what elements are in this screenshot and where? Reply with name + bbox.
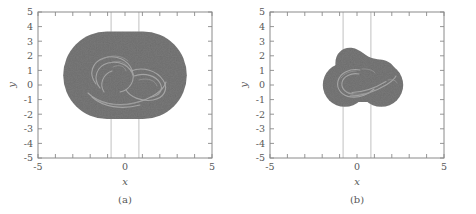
y-tick-label: -5 [24, 152, 33, 163]
x-axis-tick-labels-b: -5 0 5 [265, 161, 447, 172]
x-tick-label: -5 [265, 161, 274, 172]
y-tick-label: 4 [259, 21, 265, 32]
y-tick-label: 2 [259, 50, 265, 61]
x-tick-label: 5 [441, 161, 447, 172]
y-tick-label: -1 [256, 94, 265, 105]
chart-panel-a: 5 4 3 2 1 0 -1 -2 -3 -4 -5 -5 0 5 x y [0, 0, 238, 214]
y-axis-tick-labels-a: 5 4 3 2 1 0 -1 -2 -3 -4 -5 [24, 6, 33, 163]
x-tick-label: 0 [354, 161, 360, 172]
y-tick-label: -5 [256, 152, 265, 163]
y-tick-label: -4 [256, 138, 265, 149]
y-tick-label: 2 [27, 50, 33, 61]
cloud-body-a [63, 31, 187, 119]
y-tick-label: -1 [24, 94, 33, 105]
x-axis-label-b: x [354, 176, 360, 187]
particle-cloud-a [63, 31, 187, 119]
y-tick-label: 5 [27, 6, 33, 17]
x-axis-label-a: x [122, 176, 128, 187]
y-tick-label: -2 [24, 109, 33, 120]
y-tick-label: -3 [24, 123, 33, 134]
figure-container: 5 4 3 2 1 0 -1 -2 -3 -4 -5 -5 0 5 x y [0, 0, 476, 214]
y-tick-label: 0 [27, 79, 33, 90]
panel-caption-b: (b) [350, 194, 364, 205]
y-tick-label: 1 [259, 65, 265, 76]
x-tick-label: -5 [33, 161, 42, 172]
panel-caption-a: (a) [118, 194, 132, 205]
y-axis-tick-labels-b: 5 4 3 2 1 0 -1 -2 -3 -4 -5 [256, 6, 265, 163]
y-tick-label: 3 [27, 36, 33, 47]
x-tick-label: 5 [209, 161, 215, 172]
y-axis-label-a: y [6, 82, 17, 89]
chart-panel-b: 5 4 3 2 1 0 -1 -2 -3 -4 -5 -5 0 5 x y [238, 0, 476, 214]
y-tick-label: -4 [24, 138, 33, 149]
plot-svg-b: 5 4 3 2 1 0 -1 -2 -3 -4 -5 -5 0 5 x y [238, 0, 476, 214]
particle-cloud-b [323, 48, 403, 107]
x-tick-label: 0 [122, 161, 128, 172]
y-tick-label: 5 [259, 6, 265, 17]
y-tick-label: -2 [256, 109, 265, 120]
plot-svg-a: 5 4 3 2 1 0 -1 -2 -3 -4 -5 -5 0 5 x y [0, 0, 238, 214]
x-axis-tick-labels-a: -5 0 5 [33, 161, 215, 172]
y-tick-label: -3 [256, 123, 265, 134]
y-tick-label: 0 [259, 79, 265, 90]
y-tick-label: 3 [259, 36, 265, 47]
y-tick-label: 4 [27, 21, 33, 32]
y-axis-label-b: y [238, 82, 249, 89]
y-tick-label: 1 [27, 65, 33, 76]
